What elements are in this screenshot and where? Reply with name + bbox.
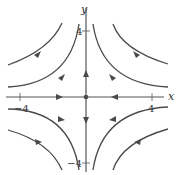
y-tick-label-neg: −4 <box>67 158 82 169</box>
trajectory-lr-outer <box>113 129 168 170</box>
arrow-icon <box>111 94 118 100</box>
arrow-icon <box>109 116 116 122</box>
arrow-icon <box>134 139 141 145</box>
arrow-icon <box>83 70 89 77</box>
trajectory-ul-outer <box>8 23 62 65</box>
trajectory-ll-outer <box>8 130 62 170</box>
trajectory-ul-inner <box>8 24 79 87</box>
y-axis <box>82 8 90 172</box>
arrow-icon <box>83 117 89 124</box>
trajectory-ur-inner <box>93 24 168 87</box>
trajectory-ur-outer <box>113 24 168 64</box>
equilibrium-point <box>84 95 89 100</box>
y-axis-label: y <box>80 3 88 16</box>
trajectory-lr-inner <box>93 107 168 170</box>
arrow-icon <box>58 116 65 122</box>
arrow-icon <box>58 74 65 81</box>
phase-portrait-diagram: y x −4 4 4 −4 <box>0 0 176 175</box>
arrow-icon <box>109 74 116 81</box>
x-tick-label-neg: −4 <box>14 103 29 114</box>
x-axis-label: x <box>168 90 175 103</box>
arrow-icon <box>56 94 63 100</box>
